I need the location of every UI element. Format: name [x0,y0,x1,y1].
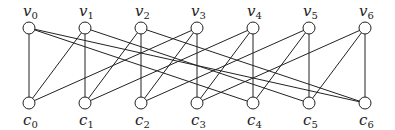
edge-v2-c1 [85,28,141,103]
node-v1 [79,22,91,34]
edge-v5-c4 [253,28,309,103]
edge-v3-c2 [141,28,197,103]
label-c3: c3 [191,111,206,130]
label-c5: c5 [303,111,318,130]
node-v5 [303,22,315,34]
label-v2: v2 [135,2,150,21]
edge-v6-c5 [309,28,365,103]
label-v6: v6 [359,2,374,21]
node-c2 [135,97,147,109]
label-c1: c1 [79,111,94,130]
edge-v1-c0 [29,28,85,103]
bipartite-graph-diagram: v0v1v2v3v4v5v6c0c1c2c3c4c5c6 [0,0,395,130]
label-v3: v3 [191,2,206,21]
node-v4 [247,22,259,34]
label-c0: c0 [23,111,38,130]
node-c5 [303,97,315,109]
node-v2 [135,22,147,34]
node-c6 [359,97,371,109]
label-c4: c4 [247,111,262,130]
edges [29,28,365,103]
node-v6 [359,22,371,34]
label-v1: v1 [79,2,94,21]
node-v3 [191,22,203,34]
node-c4 [247,97,259,109]
node-c3 [191,97,203,109]
edge-v4-c3 [197,28,253,103]
label-c2: c2 [135,111,150,130]
node-v0 [23,22,35,34]
label-v5: v5 [303,2,318,21]
node-c0 [23,97,35,109]
node-c1 [79,97,91,109]
label-v4: v4 [247,2,262,21]
label-v0: v0 [23,2,38,21]
label-c6: c6 [359,111,374,130]
